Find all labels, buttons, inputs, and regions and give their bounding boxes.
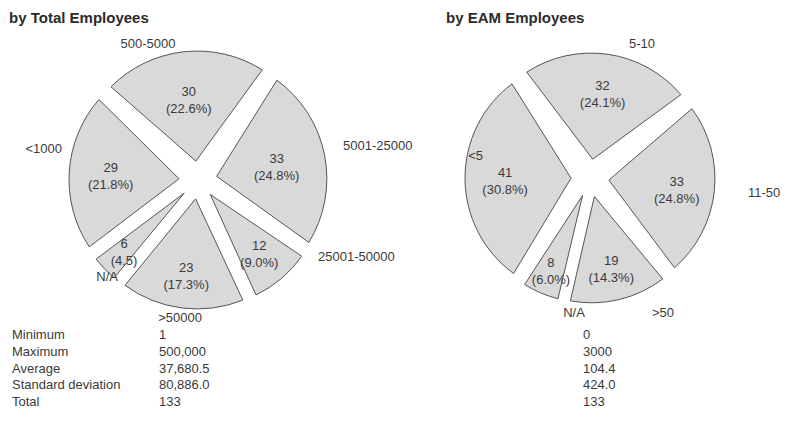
slice-category-label: <5	[468, 148, 483, 163]
stats-row-average: Average 37,680.5	[12, 361, 210, 378]
stat-value-maximum: 3000	[583, 344, 616, 361]
stats-row-minimum: Minimum 1	[12, 327, 210, 344]
slice-value-label: 32	[595, 78, 609, 93]
stat-label: Minimum	[12, 327, 159, 344]
stat-value-average: 104.4	[583, 361, 616, 378]
stat-label: Average	[12, 361, 159, 378]
slice-value-label: 33	[669, 174, 683, 189]
slice-percent-label: (6.0%)	[532, 272, 570, 287]
stat-label: Standard deviation	[12, 377, 159, 394]
slice-percent-label: (24.8%)	[654, 191, 700, 206]
slice-percent-label: (30.8%)	[482, 182, 528, 197]
slice-percent-label: (14.3%)	[588, 270, 634, 285]
slice-value-label: 8	[547, 255, 554, 270]
stat-value-std-dev: 424.0	[583, 377, 616, 394]
stat-value: 80,886.0	[159, 377, 210, 394]
slice-percent-label: (24.1%)	[580, 95, 626, 110]
stat-value: 1	[159, 327, 166, 344]
stats-row-std-dev: Standard deviation 80,886.0	[12, 377, 210, 394]
stat-value: 500,000	[159, 344, 206, 361]
stats-row-total: Total 133	[12, 394, 210, 411]
slice-value-label: 41	[498, 165, 512, 180]
slice-category-label: 5-10	[629, 36, 655, 51]
stat-value: 133	[159, 394, 181, 411]
stat-value-minimum: 0	[583, 327, 616, 344]
total-employees-stats-table: Minimum 1 Maximum 500,000 Average 37,680…	[12, 327, 210, 411]
stat-label: Total	[12, 394, 159, 411]
slice-value-label: 19	[604, 253, 618, 268]
stat-label: Maximum	[12, 344, 159, 361]
eam-employees-stats-column: 0 3000 104.4 424.0 133	[583, 327, 616, 411]
stat-value: 37,680.5	[159, 361, 210, 378]
stats-row-maximum: Maximum 500,000	[12, 344, 210, 361]
slice-category-label: >50	[652, 305, 674, 320]
slice-category-label: N/A	[563, 305, 585, 320]
slice-category-label: 11-50	[748, 185, 780, 200]
stat-value-total: 133	[583, 394, 616, 411]
